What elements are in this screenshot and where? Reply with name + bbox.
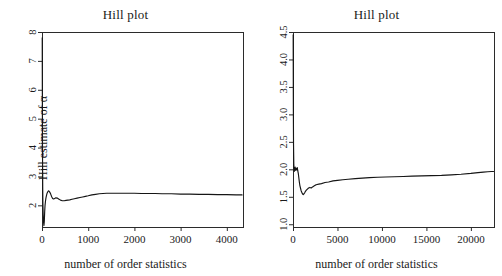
y-tick-label: 1.5 bbox=[278, 190, 289, 203]
panel-left-plot-area: 234567801000200030004000 bbox=[0, 0, 251, 276]
x-tick-label: 3000 bbox=[170, 233, 193, 245]
y-tick-label: 7 bbox=[27, 58, 38, 63]
y-tick-label: 6 bbox=[27, 87, 38, 92]
y-tick-label: 4 bbox=[27, 144, 38, 150]
hill-plot-figure: Hill plot Hill estimate of α number of o… bbox=[0, 0, 502, 276]
y-tick-label: 2.5 bbox=[278, 135, 289, 148]
panel-left: Hill plot Hill estimate of α number of o… bbox=[0, 0, 251, 276]
y-tick-label: 3.5 bbox=[278, 80, 289, 93]
x-tick-label: 15000 bbox=[413, 233, 441, 245]
y-tick-label: 4.5 bbox=[278, 25, 289, 38]
x-tick-label: 4000 bbox=[216, 233, 239, 245]
y-tick-label: 3 bbox=[27, 174, 38, 179]
panel-right-plot-area: 1.01.52.02.53.03.54.04.50500010000150002… bbox=[251, 0, 502, 276]
y-tick-label: 2.0 bbox=[278, 163, 289, 176]
y-tick-label: 2 bbox=[27, 203, 38, 208]
y-tick-label: 8 bbox=[27, 29, 38, 34]
x-tick-label: 10000 bbox=[368, 233, 396, 245]
x-tick-label: 1000 bbox=[77, 233, 100, 245]
y-tick-label: 3.0 bbox=[278, 108, 289, 121]
hill-estimate-curve bbox=[42, 38, 242, 226]
x-tick-label: 0 bbox=[290, 233, 296, 245]
y-tick-label: 5 bbox=[27, 116, 38, 121]
x-tick-label: 2000 bbox=[123, 233, 146, 245]
y-tick-label: 4.0 bbox=[278, 53, 289, 66]
y-tick-label: 1.0 bbox=[278, 218, 289, 231]
x-tick-label: 5000 bbox=[326, 233, 349, 245]
x-tick-label: 20000 bbox=[457, 233, 485, 245]
hill-estimate-curve bbox=[293, 35, 493, 195]
plot-box-frame bbox=[43, 33, 244, 228]
plot-box-frame bbox=[294, 33, 495, 228]
x-tick-label: 0 bbox=[39, 233, 45, 245]
panel-right: Hill plot Hill estimate of α number of o… bbox=[251, 0, 502, 276]
